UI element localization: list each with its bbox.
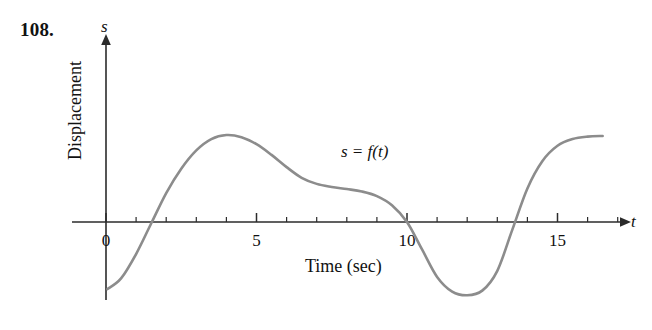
y-axis-arrowhead xyxy=(101,34,111,45)
figure-container: 108. Displacement s t Time (sec) s = f(t… xyxy=(0,0,652,330)
displacement-curve xyxy=(108,135,603,295)
x-axis xyxy=(72,217,631,227)
x-axis-tick-labels: 051015 xyxy=(102,231,566,250)
plot-area: 051015 xyxy=(0,0,652,330)
x-axis-tick-label: 0 xyxy=(102,231,111,250)
x-axis-arrowhead xyxy=(620,217,631,227)
x-axis-tick-label: 5 xyxy=(252,231,261,250)
x-axis-ticks xyxy=(106,213,618,222)
y-axis xyxy=(101,34,111,300)
x-axis-tick-label: 15 xyxy=(549,231,566,250)
